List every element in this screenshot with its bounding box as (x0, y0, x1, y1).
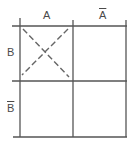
grid-diagram (0, 0, 135, 147)
column-label-not-a: A (99, 10, 106, 21)
dashed-diagonal-down (23, 29, 69, 77)
dashed-x-mark (22, 29, 69, 77)
row-label-not-b: B (7, 103, 14, 114)
row-label-b: B (7, 47, 14, 58)
column-label-a: A (43, 10, 50, 21)
